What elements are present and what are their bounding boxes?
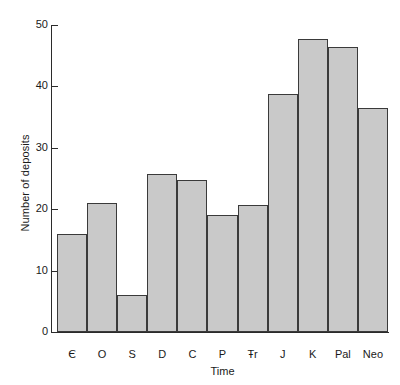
y-tick-label: 20 xyxy=(20,203,48,214)
bar-chart: Number of deposits 01020304050 ЄOSDCPŦrJ… xyxy=(0,0,400,385)
x-tick-label: C xyxy=(177,347,207,361)
x-tick-label-group: ЄOSDCPŦrJKPalNeo xyxy=(57,347,388,363)
bar xyxy=(57,234,87,332)
x-tick-label: Є xyxy=(57,347,87,362)
x-tick-label: Ŧr xyxy=(238,347,268,361)
y-tick-label: 0 xyxy=(20,326,48,337)
bar xyxy=(268,94,298,332)
bar xyxy=(117,295,147,332)
x-axis-title: Time xyxy=(57,365,388,378)
y-tick-label: 50 xyxy=(20,19,48,30)
bar xyxy=(328,47,358,333)
bar xyxy=(207,215,237,332)
x-tick-label: J xyxy=(268,347,298,361)
y-tick-label: 30 xyxy=(20,142,48,153)
x-tick-label: Neo xyxy=(358,347,388,361)
bar xyxy=(87,203,117,332)
x-axis-line xyxy=(51,332,389,333)
x-tick-label: S xyxy=(117,347,147,361)
y-tick-label: 10 xyxy=(20,265,48,276)
bar xyxy=(358,108,388,332)
x-tick-label: D xyxy=(147,347,177,361)
bar xyxy=(298,39,328,332)
x-tick-label: P xyxy=(207,347,237,361)
bar xyxy=(147,174,177,332)
x-tick-label: K xyxy=(298,347,328,361)
plot-area xyxy=(57,25,388,332)
bar xyxy=(177,180,207,332)
y-tick-label: 40 xyxy=(20,80,48,91)
x-tick-label: O xyxy=(87,347,117,361)
y-tick-label-group: 01020304050 xyxy=(18,0,48,385)
bar xyxy=(238,205,268,332)
x-tick-label: Pal xyxy=(328,347,358,361)
y-axis-line xyxy=(51,25,52,333)
